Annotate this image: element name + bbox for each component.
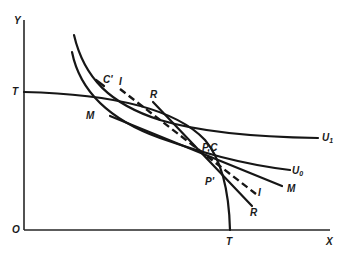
label-r-bottom: R — [250, 207, 258, 218]
indifference-curve-u1 — [74, 35, 318, 138]
label-i-bottom: I — [258, 187, 261, 198]
label-m-right: M — [287, 183, 296, 194]
origin-label: O — [12, 224, 20, 235]
label-i-top: I — [119, 76, 122, 87]
label-u1: U1 — [322, 132, 333, 144]
trade-equilibrium-diagram: Y T O T X C' I R M U1 P,C U0 P' M I R — [0, 0, 345, 255]
label-p-prime: P' — [205, 176, 215, 187]
x-axis-label: X — [325, 236, 334, 247]
y-intercept-label-t: T — [12, 86, 19, 97]
x-intercept-label-t: T — [226, 236, 233, 247]
label-pc: P,C — [202, 142, 218, 153]
price-line-i — [120, 89, 256, 194]
label-u0: U0 — [292, 165, 303, 177]
price-line-m — [110, 116, 282, 186]
y-axis-label: Y — [14, 15, 22, 26]
label-c-prime: C' — [103, 74, 113, 85]
label-m-left: M — [86, 110, 95, 121]
label-r-top: R — [150, 89, 158, 100]
indifference-curve-u0 — [72, 52, 290, 170]
transformation-curve — [24, 92, 230, 230]
